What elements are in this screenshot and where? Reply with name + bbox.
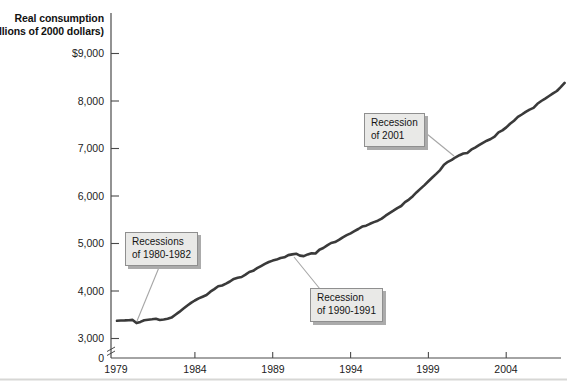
y-tick-label-3000: 3,000 (44, 332, 104, 344)
y-tick-label-6000: 6,000 (44, 190, 104, 202)
callout-text-line1: Recessions (132, 236, 191, 249)
x-tick-label-1999: 1999 (408, 363, 448, 375)
y-tick-label-7000: 7,000 (44, 142, 104, 154)
callout-recession-2001: Recession of 2001 (364, 113, 425, 147)
y-axis-title: Real consumption (billions of 2000 dolla… (0, 12, 104, 37)
y-axis-title-line2: (billions of 2000 dollars) (0, 25, 104, 38)
x-tick-label-2004: 2004 (486, 363, 526, 375)
callout-text-line1: Recession (371, 117, 418, 130)
y-tick-label-9000: $9,000 (44, 47, 104, 59)
leader-lines (137, 134, 454, 321)
x-tick-label-1984: 1984 (175, 363, 215, 375)
leader-line-recessions-1980-1982 (137, 265, 160, 321)
callout-text-line1: Recession (317, 292, 376, 305)
callout-recession-1990-1991: Recession of 1990-1991 (310, 288, 383, 322)
callout-text-line2: of 1980-1982 (132, 249, 191, 262)
x-tick-label-1994: 1994 (331, 363, 371, 375)
callout-recessions-1980-1982: Recessions of 1980-1982 (125, 232, 198, 266)
x-tick-label-1989: 1989 (253, 363, 293, 375)
y-axis-title-line1: Real consumption (0, 12, 104, 25)
leader-line-recession-2001 (427, 134, 454, 156)
callout-text-line2: of 1990-1991 (317, 305, 376, 318)
callout-text-line2: of 2001 (371, 130, 418, 143)
y-tick-marks (111, 54, 119, 339)
x-tick-label-1979: 1979 (96, 363, 136, 375)
y-tick-label-4000: 4,000 (44, 285, 104, 297)
consumption-chart-figure: Real consumption (billions of 2000 dolla… (0, 0, 567, 386)
leader-line-recession-1990-1991 (294, 257, 320, 289)
y-tick-label-8000: 8,000 (44, 95, 104, 107)
x-tick-marks (195, 352, 506, 358)
y-tick-label-0: 0 (44, 352, 104, 364)
y-tick-label-5000: 5,000 (44, 237, 104, 249)
